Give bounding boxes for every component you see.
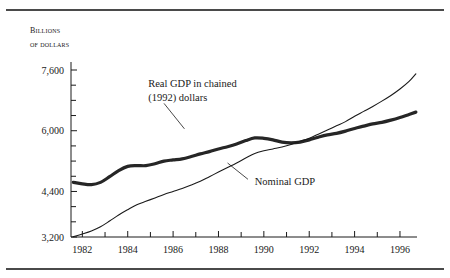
axis-frame [71, 62, 417, 237]
x-tick-label: 1988 [208, 244, 228, 255]
x-tick-label: 1982 [72, 244, 92, 255]
series-real-gdp [73, 112, 416, 185]
x-tick-label: 1984 [118, 244, 138, 255]
real-gdp-annotation-line2: (1992) dollars [148, 92, 207, 104]
data-series-layer [73, 74, 416, 237]
y-axis-title: Billions of dollars [30, 22, 69, 51]
series-nominal-gdp [73, 74, 416, 237]
y-axis-title-line2: of dollars [30, 38, 69, 51]
figure-container: Billions of dollars 3,2004,4006,0007,600… [0, 0, 450, 278]
y-tick-label: 4,400 [42, 186, 65, 197]
x-axis-tick-labels: 19821984198619881990199219941996 [72, 244, 410, 255]
x-tick-label: 1986 [163, 244, 183, 255]
real-gdp-annotation-line1: Real GDP in chained [148, 78, 237, 89]
x-tick-label: 1996 [390, 244, 410, 255]
y-axis-tick-labels: 3,2004,4006,0007,600 [42, 65, 65, 243]
bottom-rule [6, 268, 444, 270]
y-axis-title-line1: Billions [30, 22, 69, 37]
y-axis-ticks [71, 70, 77, 237]
y-tick-label: 7,600 [42, 65, 65, 76]
top-rule [6, 9, 444, 11]
y-tick-label: 6,000 [42, 125, 65, 136]
y-tick-label: 3,200 [42, 232, 65, 243]
x-axis-ticks [82, 231, 400, 237]
x-tick-label: 1992 [299, 244, 319, 255]
x-tick-label: 1994 [345, 244, 365, 255]
x-tick-label: 1990 [254, 244, 274, 255]
real-gdp-annotation-leader-line [164, 103, 184, 128]
annotation-layer: Real GDP in chained(1992) dollarsNominal… [148, 78, 315, 187]
nominal-gdp-annotation-leader-line [228, 163, 248, 179]
nominal-gdp-annotation-line1: Nominal GDP [255, 176, 316, 187]
